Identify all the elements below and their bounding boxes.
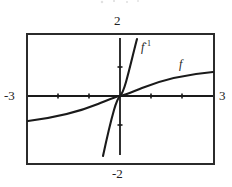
plot-canvas: [0, 0, 232, 187]
axis-label-left: -3: [4, 89, 15, 102]
axis-label-right: 3: [219, 89, 226, 102]
curve-label-f: f: [179, 58, 182, 70]
axis-label-top: 2: [114, 14, 121, 27]
graph-figure: -3 3 2 -2 f-1 f: [0, 0, 232, 187]
curve-label-f-inverse: f-1: [141, 41, 151, 53]
axis-label-bottom: -2: [112, 167, 123, 180]
curve-label-f-inverse-exponent: -1: [144, 39, 151, 48]
